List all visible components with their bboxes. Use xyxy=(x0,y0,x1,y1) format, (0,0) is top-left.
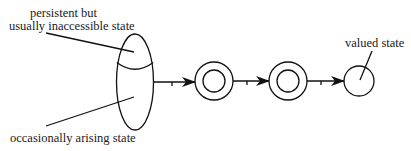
leader-line-valued xyxy=(360,51,372,80)
compound-state-divider xyxy=(117,63,153,70)
outer-circle xyxy=(195,62,233,100)
compound-state-ellipse xyxy=(117,34,154,130)
intermediate-state-2-node xyxy=(269,62,307,100)
leader-line-persistent xyxy=(46,33,134,52)
valued-state-node xyxy=(344,66,374,96)
state-diagram: persistent but usually inaccessible stat… xyxy=(0,0,411,151)
outer-circle xyxy=(269,62,307,100)
inner-circle xyxy=(277,70,299,92)
label-valued: valued state xyxy=(345,36,405,50)
edge-state1-to-state2 xyxy=(233,81,269,85)
inner-circle xyxy=(203,70,225,92)
edge-state2-to-valued xyxy=(307,81,344,85)
intermediate-state-1-node xyxy=(195,62,233,100)
label-persistent-line1: persistent but xyxy=(30,6,98,20)
label-occasional: occasionally arising state xyxy=(10,131,136,145)
label-persistent-line2: usually inaccessible state xyxy=(9,19,135,33)
edge-compound-to-state1 xyxy=(154,82,196,86)
compound-state-node xyxy=(117,34,154,130)
